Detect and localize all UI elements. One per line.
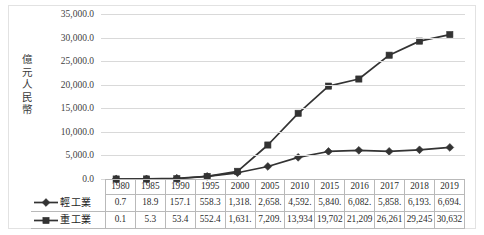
legend-square-marker-icon <box>33 215 59 226</box>
table-header-cell: 2019 <box>434 180 464 195</box>
legend-row-header: 重工業 <box>31 212 106 229</box>
y-axis-tick-label: 25,000.0 <box>61 56 94 66</box>
table-corner-cell <box>31 180 106 195</box>
table-data-cell: 18.9 <box>135 195 165 212</box>
table-data-cell: 6,193. <box>405 195 435 212</box>
series-2-marker <box>386 52 392 58</box>
table-data-cell: 2,658. <box>255 195 285 212</box>
table-header-cell: 2018 <box>405 180 435 195</box>
table-header-cell: 2000 <box>225 180 255 195</box>
table-data-cell: 7,209. <box>255 212 285 229</box>
table-header-row: 1980198519901995200020052010201520162017… <box>31 180 465 195</box>
table-header-cell: 1990 <box>165 180 195 195</box>
table-header-cell: 2015 <box>315 180 345 195</box>
y-axis-tick-label: 35,000.0 <box>61 9 94 19</box>
gridline <box>101 38 465 39</box>
table-data-cell: 26,261 <box>375 212 405 229</box>
y-axis-tick-labels: 35,000.030,000.025,000.020,000.015,000.0… <box>36 0 98 186</box>
table-header-cell: 1980 <box>106 180 136 195</box>
table-data-cell: 5,840. <box>315 195 345 212</box>
table-data-cell: 1,631. <box>225 212 255 229</box>
series-2-marker <box>234 168 240 174</box>
y-axis-title: 億元人民幣 <box>19 54 35 117</box>
table-data-cell: 6,082. <box>345 195 375 212</box>
table-data-cell: 558.3 <box>195 195 225 212</box>
table-data-cell: 0.1 <box>106 212 136 229</box>
gridline <box>101 155 465 156</box>
gridline <box>101 108 465 109</box>
gridline <box>101 14 465 15</box>
legend-label: 輕工業 <box>60 198 92 208</box>
series-2-marker <box>356 76 362 82</box>
y-axis-tick-label: 30,000.0 <box>61 33 94 43</box>
table-data-cell: 0.7 <box>106 195 136 212</box>
y-axis-tick-label: 5,000.0 <box>66 150 95 160</box>
legend-row-header: 輕工業 <box>31 195 106 212</box>
table-data-cell: 19,702 <box>315 212 345 229</box>
y-axis-tick-label: 20,000.0 <box>61 80 94 90</box>
series-1-marker <box>385 147 393 155</box>
series-line-1 <box>116 147 450 179</box>
table-header-cell: 2005 <box>255 180 285 195</box>
legend-marker <box>42 199 50 207</box>
legend-label: 重工業 <box>60 215 92 225</box>
series-1-marker <box>264 163 272 171</box>
plot-area-wrapper: 億元人民幣 35,000.030,000.025,000.020,000.015… <box>0 0 484 186</box>
table-data-cell: 53.4 <box>165 212 195 229</box>
legend-marker <box>43 217 49 223</box>
series-1-marker <box>355 146 363 154</box>
y-axis-title-char: 億 <box>19 54 35 67</box>
table-header-cell: 2010 <box>285 180 315 195</box>
y-axis-tick-label: 10,000.0 <box>61 127 94 137</box>
gridline <box>101 85 465 86</box>
table-data-cell: 5.3 <box>135 212 165 229</box>
table-data-cell: 157.1 <box>165 195 195 212</box>
gridline <box>101 61 465 62</box>
y-axis-title-char: 民 <box>19 92 35 105</box>
series-2-marker <box>295 110 301 116</box>
legend-diamond-marker-icon <box>33 197 59 208</box>
series-1-marker <box>416 146 424 154</box>
table-data-cell: 1,318. <box>225 195 255 212</box>
series-1-marker <box>446 144 454 152</box>
table-row: 重工業0.15.353.4552.41,631.7,209.13,93419,7… <box>31 212 465 229</box>
y-axis-title-char: 人 <box>19 79 35 92</box>
table-data-cell: 6,694. <box>434 195 464 212</box>
table-header-cell: 1985 <box>135 180 165 195</box>
table-data-cell: 29,245 <box>405 212 435 229</box>
series-2-marker <box>265 142 271 148</box>
table-data-cell: 5,858. <box>375 195 405 212</box>
gridline <box>101 132 465 133</box>
table-data-cell: 13,934 <box>285 212 315 229</box>
table-data-cell: 30,632 <box>434 212 464 229</box>
series-line-2 <box>116 35 450 179</box>
table-header-cell: 2017 <box>375 180 405 195</box>
plot-area <box>101 14 465 179</box>
series-2-marker <box>416 38 422 44</box>
table-data-cell: 4,592. <box>285 195 315 212</box>
data-table: 1980198519901995200020052010201520162017… <box>31 179 465 229</box>
table-row: 輕工業0.718.9157.1558.31,318.2,658.4,592.5,… <box>31 195 465 212</box>
series-svg <box>101 14 465 179</box>
chart-figure: 億元人民幣 35,000.030,000.025,000.020,000.015… <box>0 0 484 235</box>
table-header-cell: 2016 <box>345 180 375 195</box>
data-table-area: 1980198519901995200020052010201520162017… <box>31 179 465 227</box>
legend-entry: 重工業 <box>33 215 105 226</box>
series-1-marker <box>325 148 333 156</box>
table-data-cell: 552.4 <box>195 212 225 229</box>
table-header-cell: 1995 <box>195 180 225 195</box>
table-data-cell: 21,209 <box>345 212 375 229</box>
y-axis-title-char: 幣 <box>19 104 35 117</box>
legend-entry: 輕工業 <box>33 197 105 208</box>
y-axis-title-char: 元 <box>19 67 35 80</box>
y-axis-tick-label: 15,000.0 <box>61 103 94 113</box>
